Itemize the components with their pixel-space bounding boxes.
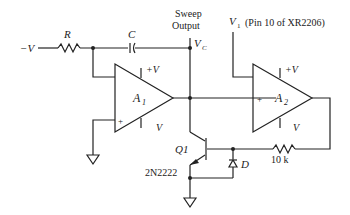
- wire: [93, 48, 115, 77]
- v1-note: (Pin 10 of XR2206): [245, 17, 325, 29]
- resistor-10k: [273, 145, 295, 153]
- resistor-r: [58, 44, 80, 52]
- wire: [93, 120, 115, 155]
- circuit-schematic: −V R C Sweep Output V C +V V A 1 + V 1 (…: [0, 0, 350, 215]
- r-label: R: [63, 28, 71, 40]
- a1-minus-v: V: [156, 122, 164, 133]
- output-label: Output: [172, 20, 200, 31]
- vc-subscript: C: [202, 44, 207, 52]
- a2-minus-v: V: [293, 122, 301, 133]
- q1-part-label: 2N2222: [145, 167, 177, 178]
- a1-subscript: 1: [142, 98, 146, 107]
- q1-label: Q1: [175, 143, 188, 155]
- v1-subscript: 1: [237, 22, 241, 30]
- a2-label: A: [274, 91, 283, 105]
- a2-plus-sign: +: [257, 94, 262, 104]
- wire: [233, 32, 253, 77]
- c-label: C: [128, 28, 136, 40]
- sweep-label: Sweep: [175, 8, 202, 19]
- vc-label: V: [194, 37, 202, 49]
- v1-label: V: [229, 15, 237, 27]
- ground-icon: [87, 155, 99, 164]
- q1-collector: [190, 132, 205, 141]
- d-label: D: [240, 158, 249, 170]
- capacitor-c-plate-curved: [134, 43, 136, 53]
- neg-v-label: −V: [20, 42, 35, 54]
- a1-plus-sign: +: [118, 116, 123, 126]
- a2-subscript: 2: [284, 98, 288, 107]
- ground-icon: [184, 198, 196, 207]
- diode-d: [229, 160, 237, 167]
- wire: [295, 98, 330, 149]
- a1-plus-v: +V: [146, 64, 161, 75]
- a2-plus-v: +V: [285, 64, 300, 75]
- r10k-label: 10 k: [271, 154, 289, 165]
- a1-label: A: [132, 91, 141, 105]
